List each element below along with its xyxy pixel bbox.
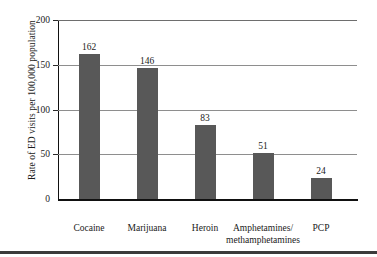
bar-value-amphetamines: 51 [258, 141, 268, 151]
x-category-label-heroin-line-1: Heroin [192, 223, 218, 235]
gridline-150 [58, 65, 357, 66]
x-category-label-cocaine: Cocaine [73, 223, 104, 235]
x-category-label-cocaine-line-1: Cocaine [73, 223, 104, 235]
bar-value-marijuana: 146 [140, 56, 154, 66]
x-category-label-amphetamines: Amphetamines/ methamphetamines [226, 223, 300, 246]
x-category-label-amphetamines-line-1: Amphetamines/ [226, 223, 300, 235]
tick-mark-100 [53, 110, 58, 111]
bar-heroin[interactable]: 83 [195, 125, 216, 199]
bar-marijuana[interactable]: 146 [137, 68, 158, 199]
x-axis-line [58, 199, 358, 201]
bar-chart-figure: Rate of ED visits per 100,000 population… [0, 0, 377, 257]
y-axis-title: Rate of ED visits per 100,000 population [27, 5, 37, 195]
gridline-200 [58, 20, 357, 21]
x-category-label-marijuana-line-1: Marijuana [127, 223, 166, 235]
x-category-label-marijuana: Marijuana [127, 223, 166, 235]
gridline-100 [58, 110, 357, 111]
y-tick-label-200: 200 [36, 15, 50, 25]
bar-value-pcp: 24 [316, 166, 326, 176]
x-category-label-pcp: PCP [313, 223, 330, 235]
y-tick-label-0: 0 [45, 194, 50, 204]
bar-pcp[interactable]: 24 [311, 178, 332, 200]
y-tick-label-50: 50 [41, 149, 51, 159]
x-category-label-pcp-line-1: PCP [313, 223, 330, 235]
bar-value-heroin: 83 [200, 113, 210, 123]
bar-value-cocaine: 162 [82, 42, 96, 52]
y-tick-label-100: 100 [36, 105, 50, 115]
x-category-label-amphetamines-line-2: methamphetamines [226, 235, 300, 247]
x-category-label-heroin: Heroin [192, 223, 218, 235]
tick-mark-50 [53, 154, 58, 155]
bar-cocaine[interactable]: 162 [79, 54, 100, 199]
tick-mark-200 [53, 20, 58, 21]
bar-amphetamines[interactable]: 51 [253, 153, 274, 199]
plot-area: 200 150 100 50 0 162 146 83 51 24 Cocain… [58, 20, 357, 199]
y-tick-label-150: 150 [36, 60, 50, 70]
tick-mark-150 [53, 65, 58, 66]
bottom-divider-rule [0, 251, 377, 254]
